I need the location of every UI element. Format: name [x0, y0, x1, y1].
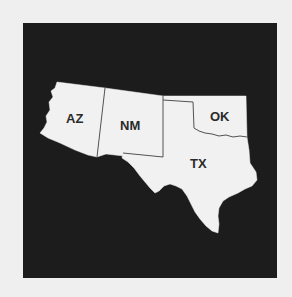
label-tx: TX [190, 156, 207, 171]
label-az: AZ [66, 111, 83, 126]
label-ok: OK [210, 109, 230, 124]
southwest-states-map: AZ NM OK TX [0, 0, 292, 297]
label-nm: NM [120, 118, 140, 133]
